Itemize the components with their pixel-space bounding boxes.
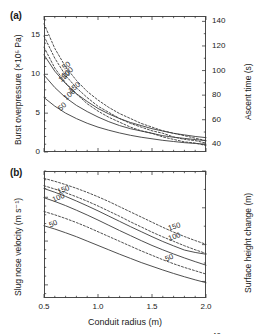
panel-a-y-right-tick-label: 40 [212, 139, 221, 148]
panel-a-y-right-tick-label: 140 [212, 16, 225, 25]
panel-b: (b) 204060 10203040 0.51.01.52.0 1501005… [0, 165, 257, 334]
panel-b-x-tick-label: 2.0 [192, 302, 220, 311]
panel-a-y-tick-label: 0 [14, 147, 40, 156]
panel-a-y-axis-title: Burst overpressure (×10⁵ Pa) [13, 34, 23, 145]
figure-root: (a) 051015 406080100120140 5010015015010… [0, 0, 257, 334]
panel-a-y-right-axis-title: Ascent time (s) [243, 63, 253, 120]
panel-b-x-tick-label: 0.5 [30, 302, 58, 311]
panel-a-y-right-tick-label: 100 [212, 66, 225, 75]
curve-dashed-100 [44, 186, 206, 254]
panel-b-x-axis-title: Conduit radius (m) [45, 317, 205, 327]
panel-b-y-axis-title: Slug nose velocity (m s⁻¹) [13, 198, 23, 296]
curve-dashed-50 [44, 24, 206, 141]
panel-a-curves [44, 24, 206, 146]
panel-a-y-right-tick-label: 120 [212, 41, 225, 50]
panel-b-y-right-axis-title: Surface height change (m) [243, 193, 253, 293]
panel-a-ticks [44, 16, 206, 152]
panel-a: (a) 051015 406080100120140 5010015015010… [0, 0, 257, 165]
curve-solid-100 [44, 198, 206, 265]
panel-b-x-tick-label: 1.0 [84, 302, 112, 311]
panel-a-y-right-tick-label: 60 [212, 115, 221, 124]
panel-a-y-right-tick-label: 80 [212, 90, 221, 99]
curve-dashed-50 [44, 211, 206, 274]
curve-solid-50 [44, 226, 206, 283]
panel-b-curves [44, 178, 206, 282]
panel-b-x-tick-label: 1.5 [138, 302, 166, 311]
